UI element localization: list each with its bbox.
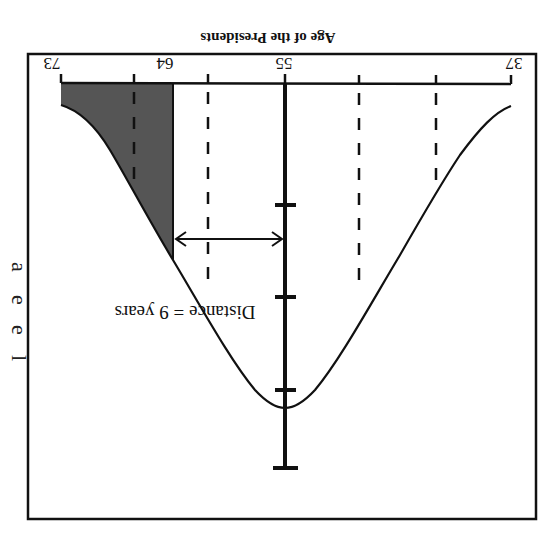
tick-labels: 73 64 55 37: [44, 54, 523, 73]
distance-arrow: [176, 232, 282, 246]
tick-label-64: 64: [156, 54, 174, 73]
svg-text:l: l: [7, 355, 32, 361]
chart-title: Age of the Presidents: [200, 30, 335, 46]
tick-label-73: 73: [44, 54, 61, 73]
svg-text:e: e: [7, 295, 32, 305]
tick-label-37: 37: [505, 54, 523, 73]
distance-label: Distance = 9 years: [114, 302, 255, 323]
svg-text:e: e: [7, 325, 32, 335]
svg-text:a: a: [7, 262, 32, 272]
tick-label-55: 55: [276, 54, 293, 73]
normal-curve-figure: Age of the Presidents 73 64 55 37 Distan…: [0, 0, 557, 542]
